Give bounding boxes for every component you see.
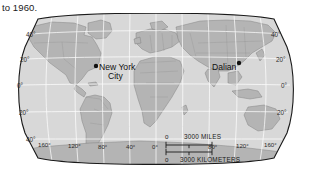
lat-label-left-3: 20°	[19, 109, 29, 116]
lat-label-left-2: 0°	[17, 82, 24, 89]
city-label-new-york-line2: City	[108, 71, 124, 81]
scale-km-label: 3000 KILOMETERS	[180, 156, 240, 163]
city-dot-dalian	[237, 61, 241, 65]
lon-label-5: 80°	[208, 143, 218, 150]
lat-label-left-0: 40°	[26, 31, 36, 38]
lon-label-3: 40°	[126, 143, 136, 150]
lon-label-1: 120°	[68, 142, 81, 149]
lon-label-4: 0°	[152, 143, 158, 150]
city-dot-new-york-city	[94, 64, 98, 68]
lon-label-2: 80°	[98, 143, 108, 150]
city-label-dalian: Dalian	[212, 62, 237, 72]
lon-label-0: 160°	[38, 141, 51, 148]
lat-label-right-1: 20°	[276, 56, 286, 63]
lat-label-right-0: 40°	[271, 31, 281, 38]
lon-label-6: 120°	[236, 142, 249, 149]
world-map-svg: 40° 20° 0° 20° 40° 40° 20° 0° 20° 160° 1…	[0, 13, 312, 178]
longitude-labels: 160° 120° 80° 40° 0° 80° 120° 160°	[38, 141, 277, 150]
lon-label-7: 160°	[264, 141, 277, 148]
figure-caption-text: to 1960.	[2, 2, 37, 13]
scale-miles-zero: 0	[165, 133, 169, 140]
lat-label-right-3: 20°	[277, 109, 287, 116]
scale-miles-label: 3000 MILES	[184, 133, 221, 140]
lat-label-left-4: 40°	[26, 136, 36, 143]
lat-label-left-1: 20°	[20, 56, 30, 63]
scale-km-zero: 0	[165, 156, 169, 163]
world-map-figure: 40° 20° 0° 20° 40° 40° 20° 0° 20° 160° 1…	[0, 13, 312, 178]
lat-label-right-2: 0°	[281, 82, 288, 89]
